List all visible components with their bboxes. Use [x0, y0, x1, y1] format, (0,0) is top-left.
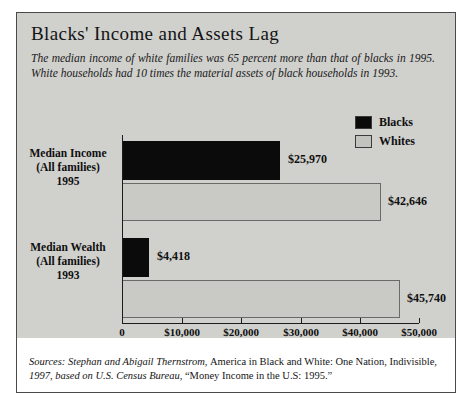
- bar-value-income-blacks: $25,970: [288, 152, 327, 167]
- source-note-area: Sources: Stephan and Abigail Thernstrom,…: [17, 338, 455, 392]
- axis-tick-40000: [360, 318, 361, 323]
- bar-value-wealth-whites: $45,740: [407, 291, 446, 306]
- category-label-line3: 1993: [13, 268, 123, 282]
- bar-value-wealth-blacks: $4,418: [157, 249, 190, 264]
- axis-tick-10000: [182, 318, 183, 323]
- category-label-line2: (All families): [13, 160, 123, 174]
- source-note: Sources: Stephan and Abigail Thernstrom,…: [29, 355, 443, 383]
- axis-tick-30000: [301, 318, 302, 323]
- category-label-line2: (All families): [13, 254, 123, 268]
- axis-label-40000: $40,000: [342, 326, 378, 338]
- axis-label-20000: $20,000: [223, 326, 259, 338]
- axis-tick-50000: [419, 318, 420, 323]
- source-end: “Money Income in the U.S: 1995.”: [185, 370, 332, 381]
- plot-area: Median Income (All families) 1995 Median…: [17, 13, 455, 338]
- axis-tick-20000: [241, 318, 242, 323]
- bar-wealth-blacks[interactable]: [122, 238, 149, 277]
- value-axis-line: [122, 323, 419, 324]
- axis-label-0: 0: [119, 326, 125, 338]
- bar-income-blacks[interactable]: [122, 141, 280, 180]
- chart-panel: Blacks' Income and Assets Lag The median…: [17, 13, 455, 338]
- category-label-line1: Median Wealth: [13, 240, 123, 254]
- category-label-line1: Median Income: [13, 146, 123, 160]
- category-label-median-income: Median Income (All families) 1995: [13, 146, 123, 188]
- axis-label-10000: $10,000: [164, 326, 200, 338]
- bar-income-whites[interactable]: [122, 183, 381, 221]
- source-year: 1997,: [29, 370, 53, 381]
- axis-tick-0: [122, 318, 123, 323]
- category-label-line3: 1995: [13, 174, 123, 188]
- value-axis-vertical-line: [122, 135, 123, 323]
- bar-value-income-whites: $42,646: [388, 194, 427, 209]
- source-mid: based on U.S. Census Bureau,: [55, 370, 182, 381]
- category-label-median-wealth: Median Wealth (All families) 1993: [13, 240, 123, 282]
- axis-label-30000: $30,000: [283, 326, 319, 338]
- axis-label-50000: $50,000: [401, 326, 437, 338]
- source-book-title: America in Black and White: One Nation, …: [210, 356, 437, 367]
- source-prefix: Sources: Stephan and Abigail Thernstrom,: [29, 356, 207, 367]
- chart-figure: Blacks' Income and Assets Lag The median…: [16, 12, 456, 393]
- bar-wealth-whites[interactable]: [122, 280, 400, 318]
